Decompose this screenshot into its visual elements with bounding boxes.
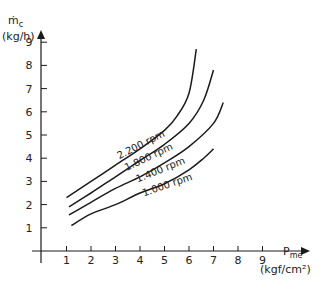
x-axis-label: Pme — [283, 245, 302, 260]
y-tick-label: 7 — [26, 83, 33, 96]
y-ticks: 123456789 — [26, 36, 48, 235]
y-tick-label: 2 — [26, 199, 33, 212]
x-tick-label: 8 — [235, 254, 242, 267]
y-tick-label: 3 — [26, 175, 33, 188]
y-tick-label: 8 — [26, 59, 33, 72]
x-tick-label: 1 — [63, 254, 70, 267]
y-tick-label: 1 — [26, 222, 33, 235]
x-tick-label: 3 — [112, 254, 119, 267]
y-tick-label: 6 — [26, 106, 33, 119]
y-axis-label: ṁc — [8, 14, 23, 29]
y-tick-label: 5 — [26, 129, 33, 142]
x-tick-label: 2 — [88, 254, 95, 267]
curve-labels: 2.200 rpm1.800 rpm1.400 rpm1.000 rpm — [115, 128, 193, 199]
y-axis-arrow-icon — [37, 30, 45, 39]
x-tick-label: 4 — [137, 254, 144, 267]
x-tick-label: 7 — [210, 254, 217, 267]
x-ticks: 123456789 — [63, 246, 266, 267]
y-axis-unit: (kg/h) — [2, 30, 35, 43]
line-chart: 123456789 123456789 2.200 rpm1.800 rpm1.… — [0, 0, 334, 282]
x-axis-unit: (kgf/cm²) — [260, 263, 311, 276]
x-tick-label: 5 — [161, 254, 168, 267]
y-tick-label: 4 — [26, 152, 33, 165]
x-tick-label: 6 — [186, 254, 193, 267]
